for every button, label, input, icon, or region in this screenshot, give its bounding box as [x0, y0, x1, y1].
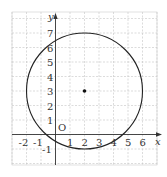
y-axis-label: y: [47, 11, 54, 22]
y-tick-label: 1: [47, 115, 53, 126]
x-axis-label: x: [155, 136, 161, 147]
x-tick-label: 3: [96, 137, 102, 148]
center-point: [83, 89, 87, 93]
x-tick-label: -2: [19, 137, 29, 148]
y-tick-label: 6: [47, 43, 53, 54]
x-tick-labels: -2-1123456: [19, 137, 146, 148]
x-tick-label: 1: [67, 137, 73, 148]
x-tick-label: 2: [82, 137, 88, 148]
y-tick-label: 2: [47, 101, 53, 112]
y-tick-label: -1: [42, 144, 52, 155]
y-axis-arrow-icon: [53, 13, 57, 19]
y-tick-label: 4: [47, 72, 53, 83]
x-tick-label: 4: [111, 137, 117, 148]
x-tick-label: 6: [140, 137, 146, 148]
y-tick-label: 7: [47, 28, 53, 39]
coordinate-diagram: y x O -2-1123456 -11234567: [0, 0, 167, 177]
y-tick-label: 3: [47, 86, 53, 97]
origin-label: O: [58, 122, 66, 133]
y-tick-label: 5: [47, 57, 53, 68]
x-tick-label: 5: [125, 137, 131, 148]
